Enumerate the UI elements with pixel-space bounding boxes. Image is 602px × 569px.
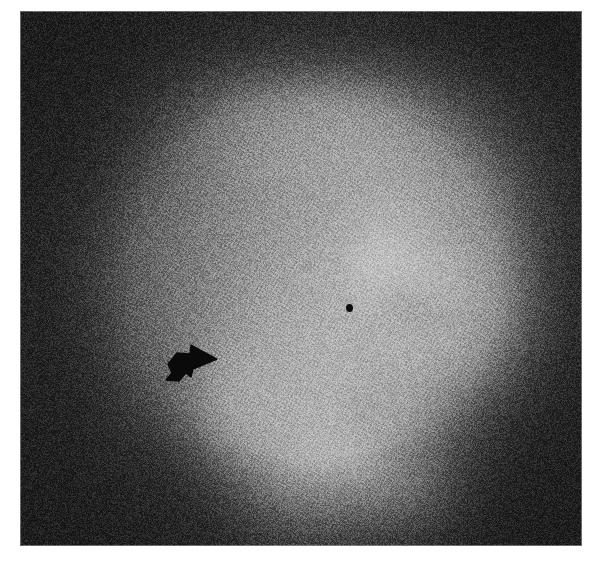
radiograph-image	[20, 11, 582, 546]
dot-marker-icon	[346, 304, 353, 312]
pointer-arrow-icon	[163, 340, 219, 386]
figure-page	[0, 0, 602, 569]
radiograph-plate	[20, 11, 582, 546]
pointer-arrow-glyph	[163, 340, 219, 386]
